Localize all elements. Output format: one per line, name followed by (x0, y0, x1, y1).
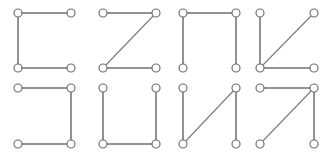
node-bl (256, 140, 264, 148)
node-br (152, 140, 160, 148)
diagram-canvas (0, 0, 332, 157)
node-br (232, 140, 240, 148)
node-bl (99, 140, 107, 148)
graph-Z-shape (99, 9, 160, 72)
node-tl (14, 84, 22, 92)
graph-U-shape (99, 84, 160, 148)
edge (260, 13, 314, 68)
node-tl (256, 84, 264, 92)
node-br (67, 140, 75, 148)
graph-K-shape (256, 9, 318, 72)
node-bl (256, 64, 264, 72)
node-br (310, 64, 318, 72)
node-tr (310, 9, 318, 17)
edge (183, 88, 236, 144)
graph-reverse-C-shape (14, 84, 75, 148)
node-tl (179, 84, 187, 92)
node-tl (14, 9, 22, 17)
node-br (152, 64, 160, 72)
node-tl (99, 9, 107, 17)
graph-7-shape (256, 84, 318, 148)
node-tl (256, 9, 264, 17)
node-tr (67, 9, 75, 17)
node-tr (152, 84, 160, 92)
node-bl (179, 140, 187, 148)
edge (260, 88, 314, 144)
node-tl (179, 9, 187, 17)
node-bl (99, 64, 107, 72)
node-br (67, 64, 75, 72)
node-br (310, 140, 318, 148)
node-bl (14, 64, 22, 72)
node-tr (310, 84, 318, 92)
node-tr (232, 84, 240, 92)
graph-arch-shape (179, 9, 240, 72)
node-bl (14, 140, 22, 148)
node-tr (232, 9, 240, 17)
node-tr (67, 84, 75, 92)
edge (103, 13, 156, 68)
node-br (232, 64, 240, 72)
graph-N-shape (179, 84, 240, 148)
node-tl (99, 84, 107, 92)
node-bl (179, 64, 187, 72)
node-tr (152, 9, 160, 17)
graph-C-shape (14, 9, 75, 72)
